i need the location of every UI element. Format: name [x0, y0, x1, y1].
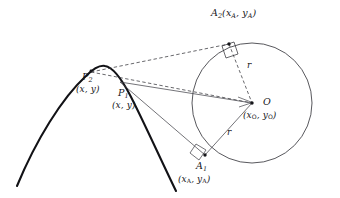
segment-p2-a2: [91, 44, 229, 72]
label-a1-name: A: [196, 160, 203, 171]
label-a2: A2(xA, yA): [211, 8, 256, 19]
label-o-coords: (xO, yO): [243, 111, 276, 121]
label-a2-name: A: [211, 7, 218, 18]
geometry-figure: A2(xA, yA) P2 (x, y) P1 (x, y) O (xO, yO…: [0, 0, 340, 198]
label-a1-coords: (xA, yA): [178, 175, 210, 185]
label-a1-coord-close: ): [207, 174, 211, 184]
point-dot-o: [250, 101, 253, 104]
label-p2-subscript: 2: [89, 76, 93, 84]
label-a1: A1: [196, 161, 207, 172]
label-a1-coord-open: (x: [178, 174, 187, 184]
point-dot-a1: [203, 153, 206, 156]
label-o-coord-open: (x: [243, 110, 252, 120]
label-p2-coords: (x, y): [76, 85, 100, 94]
diagram-canvas: [0, 0, 340, 198]
label-o-coord-close: ): [273, 110, 277, 120]
label-p1-coords: (x, y): [112, 101, 136, 110]
segment-p1-a1: [120, 82, 205, 155]
label-p1: P1: [118, 88, 129, 99]
label-o-coord-mid: , y: [257, 110, 268, 120]
radius-a2-o: [229, 44, 252, 103]
label-a1-coord-mid: , y: [191, 174, 202, 184]
label-radius-upper: r: [247, 61, 251, 70]
label-p2: P2: [82, 72, 93, 83]
label-a2-coord-close: ): [252, 7, 256, 18]
segment-p1-o: [120, 82, 252, 103]
point-dot-a2: [227, 42, 230, 45]
right-angle-marker-a1: [190, 144, 206, 160]
label-a2-coord-mid: , y: [236, 7, 248, 18]
label-radius-lower: r: [227, 128, 231, 137]
label-p1-subscript: 1: [125, 92, 129, 100]
segment-p2-o: [91, 72, 252, 103]
label-a2-coord-open: (x: [222, 7, 231, 18]
label-o: O: [263, 97, 271, 107]
label-a1-subscript: 1: [203, 165, 207, 173]
